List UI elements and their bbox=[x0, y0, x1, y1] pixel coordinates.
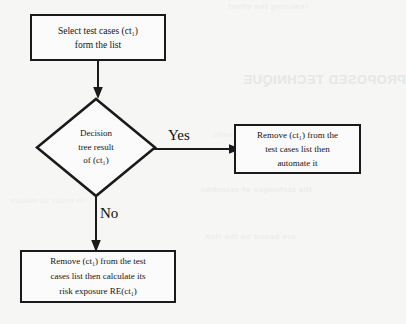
node-text-line: form the list bbox=[75, 38, 121, 52]
scan-bleed-text: reducing the effort bbox=[228, 2, 308, 11]
node-text-line: Select test cases (ct₁) bbox=[58, 24, 138, 38]
node-text-line: Remove (ct₁) from the test bbox=[50, 254, 146, 269]
node-text-line: tree result bbox=[78, 141, 114, 155]
node-text-line: cases list then calculate its bbox=[51, 269, 146, 284]
node-remove-and-automate: Remove (ct₁) from the test cases list th… bbox=[234, 124, 361, 174]
node-remove-and-calculate-risk: Remove (ct₁) from the test cases list th… bbox=[20, 250, 176, 303]
scan-bleed-text: PROPOSED TECHNIQUE bbox=[243, 72, 406, 87]
scan-bleed-text: are based on the risk bbox=[205, 232, 296, 241]
node-text-line: risk exposure RE(ct₁) bbox=[59, 284, 137, 299]
node-text-line: Decision bbox=[80, 127, 112, 141]
node-text-line: automate it bbox=[277, 156, 317, 170]
edge-no-branch bbox=[80, 194, 116, 254]
node-select-test-cases: Select test cases (ct₁) form the list bbox=[30, 14, 166, 61]
edge-yes-branch bbox=[150, 138, 242, 160]
edge-start-to-decision bbox=[80, 58, 116, 100]
edge-label-yes: Yes bbox=[168, 127, 190, 144]
node-text-line: of (ct₁) bbox=[83, 154, 108, 168]
scan-bleed-text: the technique of selection bbox=[200, 185, 312, 194]
decision-label-group: Decision tree result of (ct₁) bbox=[35, 97, 157, 198]
node-text-line: Remove (ct₁) from the bbox=[257, 128, 338, 142]
node-decision-tree-result: Decision tree result of (ct₁) bbox=[35, 97, 157, 198]
node-text-line: test cases list then bbox=[265, 142, 330, 156]
edge-label-no: No bbox=[100, 205, 118, 222]
